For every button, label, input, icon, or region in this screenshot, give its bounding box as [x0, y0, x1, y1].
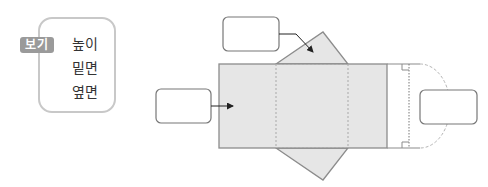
answer-box-left[interactable]: [156, 89, 211, 123]
prism-net-diagram: [0, 0, 488, 187]
right-angle-mark: [402, 64, 409, 70]
top-base-triangle: [276, 32, 348, 64]
bottom-base-triangle: [276, 148, 348, 180]
right-angle-mark: [402, 142, 409, 148]
answer-box-right[interactable]: [420, 90, 477, 124]
answer-box-top[interactable]: [223, 17, 279, 51]
side-faces: [219, 64, 387, 148]
